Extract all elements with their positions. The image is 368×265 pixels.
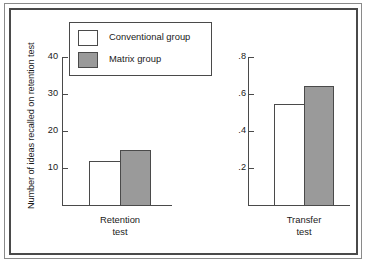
y-tick-10-retention bbox=[63, 168, 68, 169]
x-category-label-retention: Retentiontest bbox=[80, 214, 160, 238]
bar-retention-matrix[interactable] bbox=[120, 150, 151, 206]
legend: Conventional group Matrix group bbox=[69, 22, 212, 76]
chart-panel-transfer: Proportion correct on transfer test .8 .… bbox=[190, 0, 368, 265]
y-tick-label-02-transfer: .2 bbox=[224, 162, 246, 172]
y-tick-label-10-retention: 10 bbox=[36, 162, 58, 172]
y-tick-label-04-transfer: .4 bbox=[224, 125, 246, 135]
y-tick-40-retention bbox=[63, 57, 68, 58]
x-category-label-retention-line1: Retention bbox=[100, 214, 140, 225]
bar-transfer-conventional[interactable] bbox=[274, 104, 305, 206]
bar-transfer-matrix[interactable] bbox=[304, 86, 334, 206]
y-tick-label-20-retention: 20 bbox=[36, 125, 58, 135]
x-category-label-transfer-line2: test bbox=[296, 226, 311, 237]
y-tick-20-retention bbox=[63, 131, 68, 132]
x-category-label-transfer: Transfertest bbox=[264, 214, 344, 238]
y-tick-04-transfer bbox=[249, 131, 254, 132]
legend-swatch-conventional-icon bbox=[78, 30, 98, 46]
y-tick-02-transfer bbox=[249, 168, 254, 169]
y-axis-title-retention: Number of ideas recalled on retention te… bbox=[26, 43, 36, 209]
x-category-label-transfer-line1: Transfer bbox=[287, 214, 322, 225]
y-tick-30-retention bbox=[63, 94, 68, 95]
y-tick-label-06-transfer: .6 bbox=[224, 88, 246, 98]
y-tick-label-40-retention: 40 bbox=[36, 51, 58, 61]
legend-label-matrix: Matrix group bbox=[109, 53, 161, 64]
legend-swatch-matrix-icon bbox=[78, 52, 98, 68]
x-category-label-retention-line2: test bbox=[112, 226, 127, 237]
legend-label-conventional: Conventional group bbox=[109, 31, 190, 42]
y-tick-label-30-retention: 30 bbox=[36, 88, 58, 98]
y-tick-06-transfer bbox=[249, 94, 254, 95]
y-tick-08-transfer bbox=[249, 57, 254, 58]
y-tick-label-08-transfer: .8 bbox=[224, 51, 246, 61]
bar-retention-conventional[interactable] bbox=[89, 161, 121, 206]
